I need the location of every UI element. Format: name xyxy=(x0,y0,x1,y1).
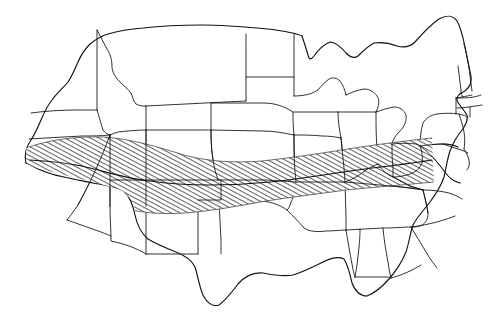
map-figure xyxy=(0,0,499,330)
us-states-map xyxy=(0,0,499,330)
